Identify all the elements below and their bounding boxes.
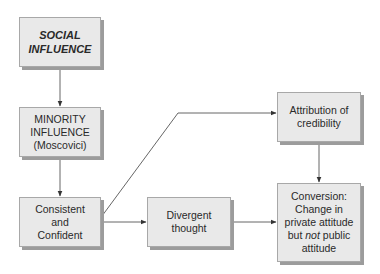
node-text: Change in <box>295 203 343 216</box>
node-text: Attribution of <box>290 104 349 117</box>
flowchart: SOCIAL INFLUENCE MINORITY INFLUENCE (Mos… <box>0 0 380 274</box>
node-social-influence: SOCIAL INFLUENCE <box>19 17 101 67</box>
node-text: Confident <box>38 229 83 242</box>
node-text: thought <box>171 222 206 235</box>
node-text: MINORITY <box>34 113 85 126</box>
node-attribution-credibility: Attribution of credibility <box>277 92 361 142</box>
node-text: INFLUENCE <box>30 126 90 139</box>
node-text: SOCIAL <box>39 28 81 42</box>
node-text: private attitude <box>285 216 354 229</box>
node-text: attitude <box>302 242 336 255</box>
node-minority-influence: MINORITY INFLUENCE (Moscovici) <box>19 107 101 157</box>
node-text-mixed: but not public <box>288 229 350 242</box>
node-consistent-confident: Consistent and Confident <box>19 197 101 247</box>
node-text: but <box>288 229 306 241</box>
node-text: credibility <box>297 117 341 130</box>
node-divergent-thought: Divergent thought <box>147 197 231 247</box>
node-text: INFLUENCE <box>29 42 92 56</box>
node-conversion: Conversion: Change in private attitude b… <box>277 183 361 262</box>
node-text: and <box>51 216 69 229</box>
node-text: Divergent <box>167 209 212 222</box>
node-text: (Moscovici) <box>33 139 86 152</box>
node-text: Consistent <box>35 203 85 216</box>
emphasis-text: not <box>305 229 320 241</box>
node-text: Conversion: <box>291 190 347 203</box>
node-text: public <box>320 229 350 241</box>
